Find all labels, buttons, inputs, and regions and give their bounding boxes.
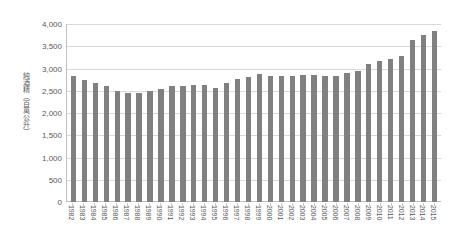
x-tick-slot: 2006 [330, 203, 341, 246]
x-tick-label: 1984 [90, 205, 97, 220]
bar [366, 64, 371, 202]
x-tick-label: 1986 [112, 205, 119, 220]
x-tick-slot: 2004 [308, 203, 319, 246]
bar [410, 40, 415, 202]
x-tick-label: 2006 [331, 205, 338, 220]
y-tick-label: 2,500 [30, 86, 62, 95]
bar [300, 75, 305, 202]
plot-area [66, 24, 441, 202]
bar [355, 71, 360, 202]
x-tick-slot: 1998 [243, 203, 254, 246]
x-tick-slot: 2005 [319, 203, 330, 246]
x-tick-label: 2011 [386, 205, 393, 220]
bar [399, 56, 404, 202]
x-tick-slot: 2000 [264, 203, 275, 246]
bar [169, 86, 174, 202]
x-tick-slot: 1982 [67, 203, 78, 246]
bar-slot [101, 24, 112, 202]
bar-slot [429, 24, 440, 202]
bar-slot [134, 24, 145, 202]
x-tick-slot: 1985 [100, 203, 111, 246]
x-tick-label: 1991 [167, 205, 174, 220]
bar [377, 61, 382, 203]
bar [344, 73, 349, 202]
x-tick-slot: 1995 [210, 203, 221, 246]
bar [104, 86, 109, 202]
x-tick-label: 2004 [309, 205, 316, 220]
bar-slot [287, 24, 298, 202]
bar-slot [418, 24, 429, 202]
x-tick-label: 1988 [134, 205, 141, 220]
bar-slot [254, 24, 265, 202]
bar-slot [341, 24, 352, 202]
y-tick-label: 3,000 [30, 64, 62, 73]
bar-chart: 純酒精（百萬公升） 05001,0001,5002,0002,5003,0003… [0, 0, 458, 246]
x-tick-slot: 1992 [177, 203, 188, 246]
x-tick-slot: 2011 [385, 203, 396, 246]
bar [180, 86, 185, 202]
x-tick-slot: 1986 [111, 203, 122, 246]
bar [125, 93, 130, 202]
x-tick-label: 1989 [145, 205, 152, 220]
bar-slot [352, 24, 363, 202]
bar-slot [79, 24, 90, 202]
bar-slot [112, 24, 123, 202]
bar-slot [210, 24, 221, 202]
x-tick-slot: 2008 [352, 203, 363, 246]
y-tick-label: 0 [30, 198, 62, 207]
x-tick-label: 1999 [254, 205, 261, 220]
bar-slot [396, 24, 407, 202]
x-tick-label: 1995 [211, 205, 218, 220]
bar [93, 83, 98, 202]
x-tick-slot: 1991 [166, 203, 177, 246]
x-tick-label: 2008 [353, 205, 360, 220]
bar-slot [199, 24, 210, 202]
x-tick-label: 2015 [430, 205, 437, 220]
bar [421, 35, 426, 202]
bar [158, 89, 163, 202]
bar [71, 76, 76, 202]
y-tick-label: 1,500 [30, 131, 62, 140]
bar [432, 31, 437, 202]
bar-slot [188, 24, 199, 202]
x-tick-slot: 2007 [341, 203, 352, 246]
x-tick-label: 1985 [101, 205, 108, 220]
x-tick-slot: 2014 [418, 203, 429, 246]
bar [82, 80, 87, 202]
bar [311, 75, 316, 202]
bar [246, 77, 251, 202]
x-tick-label: 1997 [233, 205, 240, 220]
x-tick-label: 2014 [419, 205, 426, 220]
bar-slot [177, 24, 188, 202]
x-tick-slot: 1987 [122, 203, 133, 246]
bar [235, 79, 240, 202]
x-tick-label: 2003 [298, 205, 305, 220]
x-axis-tick-labels: 1982198319841985198619871988198919901991… [66, 203, 441, 246]
x-tick-slot: 1994 [199, 203, 210, 246]
x-tick-label: 2000 [265, 205, 272, 220]
bar-slot [385, 24, 396, 202]
x-tick-label: 1993 [189, 205, 196, 220]
bar-slot [265, 24, 276, 202]
x-tick-slot: 2013 [407, 203, 418, 246]
bar [213, 88, 218, 202]
bar [115, 91, 120, 202]
x-tick-slot: 1988 [133, 203, 144, 246]
x-tick-slot: 1999 [253, 203, 264, 246]
bar-slot [298, 24, 309, 202]
bar [268, 76, 273, 202]
bar-slot [90, 24, 101, 202]
x-tick-label: 1987 [123, 205, 130, 220]
x-tick-label: 2009 [364, 205, 371, 220]
x-tick-label: 2007 [342, 205, 349, 220]
bar-slot [145, 24, 156, 202]
x-tick-slot: 2001 [275, 203, 286, 246]
bar [279, 76, 284, 202]
x-tick-label: 1990 [156, 205, 163, 220]
x-tick-label: 2005 [320, 205, 327, 220]
bar-slot [309, 24, 320, 202]
x-tick-label: 1982 [68, 205, 75, 220]
x-tick-slot: 2012 [396, 203, 407, 246]
bar-slot [156, 24, 167, 202]
y-tick-label: 500 [30, 175, 62, 184]
